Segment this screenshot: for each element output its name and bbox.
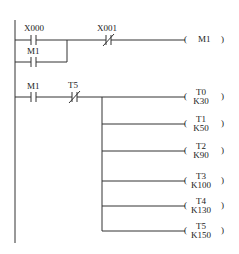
- coil-t3-preset: K100: [186, 181, 216, 190]
- x001-label: X001: [97, 24, 117, 33]
- m1-branch-label: M1: [27, 47, 40, 56]
- coil-t5-preset: K150: [186, 231, 216, 240]
- coil-m1-label: M1: [198, 35, 211, 44]
- coil-t4-preset: K130: [186, 206, 216, 215]
- coil-t0-preset: K30: [186, 97, 216, 106]
- m1-rung2-label: M1: [27, 82, 40, 91]
- t5-contact-label: T5: [68, 81, 78, 90]
- x000-label: X000: [24, 24, 44, 33]
- coil-t2-preset: K90: [186, 151, 216, 160]
- coil-t1-preset: K50: [186, 124, 216, 133]
- coil-m1-close: ): [221, 35, 224, 44]
- coil-m1-open: (: [184, 35, 187, 44]
